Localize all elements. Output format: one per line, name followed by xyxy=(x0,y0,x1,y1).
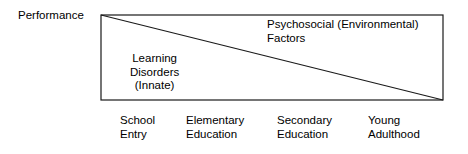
stage-label-school-entry: School Entry xyxy=(120,113,155,141)
region-label-psychosocial: Psychosocial (Environmental) Factors xyxy=(267,18,418,45)
stage-label-young-adulthood: Young Adulthood xyxy=(368,113,420,141)
stage-label-secondary-education: Secondary Education xyxy=(277,113,332,141)
stage-label-elementary-education: Elementary Education xyxy=(186,113,244,141)
region-label-learning-disorders: Learning Disorders (Innate) xyxy=(130,52,179,93)
performance-factors-diagram: Performance Learning Disorders (Innate) … xyxy=(0,0,468,154)
